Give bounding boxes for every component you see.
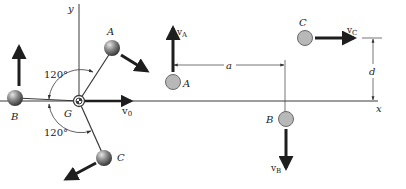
angle-label-lower: 120°: [44, 127, 68, 138]
dim-a-label: a: [226, 60, 232, 71]
sphere-c-label: C: [117, 152, 125, 163]
mass-center-label: G: [64, 108, 72, 119]
sphere-c: [96, 150, 112, 166]
particle-c-velocity-label: vC: [346, 25, 357, 37]
particle-b-velocity-label: vB: [270, 163, 281, 175]
particle-a-label: A: [182, 78, 190, 89]
particle-c-label: C: [299, 17, 307, 28]
y-axis: y: [67, 3, 79, 101]
particle-c: [298, 31, 313, 46]
rod-c: [79, 101, 104, 157]
x-axis-label: x: [376, 103, 382, 114]
particle-b-label: B: [265, 114, 273, 125]
particle-b: [279, 112, 294, 127]
particle-a: [166, 75, 181, 90]
rigid-body: 120° 120° A B C v0 G: [7, 26, 147, 179]
angle-label-upper: 120°: [44, 69, 68, 80]
x-axis: x: [0, 101, 382, 114]
sphere-b: [7, 90, 23, 106]
y-axis-label: y: [67, 3, 74, 14]
rigid-body-diagram: x y 120° 120° A B C v0: [0, 0, 406, 189]
sphere-a: [104, 40, 120, 56]
dim-d-label: d: [369, 66, 375, 77]
sphere-a-velocity-arrow: [121, 55, 147, 71]
sphere-a-label: A: [106, 26, 114, 37]
mass-center-icon: [74, 96, 85, 107]
sphere-c-velocity-arrow: [66, 163, 96, 179]
rod-a: [79, 50, 112, 101]
sphere-b-label: B: [10, 111, 18, 122]
center-velocity-label: v0: [121, 105, 132, 118]
particle-a-velocity-label: vA: [176, 27, 188, 39]
particle-system: vA A a B vB C vC d: [166, 17, 383, 175]
